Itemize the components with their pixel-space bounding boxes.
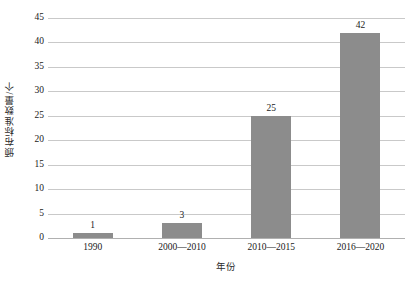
y-axis-tick-labels: 454035302520151050 bbox=[18, 18, 44, 238]
x-axis-tick-label: 2010—2015 bbox=[247, 241, 295, 254]
x-axis-title: 年份 bbox=[48, 259, 405, 273]
y-axis-tick-label: 35 bbox=[20, 62, 44, 72]
bar-chart-figure: 颁布标准数量/个 454035302520151050 132542 19902… bbox=[0, 0, 418, 286]
y-axis-title-text: 颁布标准数量/个 bbox=[3, 81, 17, 157]
x-axis-tick-labels: 19902000—20102010—20152016—2020 bbox=[48, 241, 405, 257]
y-axis-tick-label: 15 bbox=[20, 160, 44, 170]
y-axis-tick-label: 40 bbox=[20, 38, 44, 48]
y-axis-tick-label: 10 bbox=[20, 184, 44, 194]
bar-group: 1 bbox=[48, 18, 137, 238]
bar bbox=[73, 233, 113, 238]
bar bbox=[251, 116, 291, 238]
bar-value-label: 1 bbox=[90, 220, 95, 230]
bar-group: 25 bbox=[227, 18, 316, 238]
plot-area: 132542 bbox=[48, 18, 405, 238]
bar bbox=[340, 33, 380, 238]
bar-value-label: 42 bbox=[356, 20, 366, 30]
bar-value-label: 3 bbox=[180, 210, 185, 220]
x-axis-tick-label: 1990 bbox=[83, 241, 102, 254]
y-axis-tick-label: 0 bbox=[20, 233, 44, 243]
y-axis-tick-label: 5 bbox=[20, 209, 44, 219]
bar bbox=[162, 223, 202, 238]
x-axis-baseline bbox=[48, 238, 405, 239]
y-axis-tick-label: 45 bbox=[20, 13, 44, 23]
y-axis-tick-label: 25 bbox=[20, 111, 44, 121]
y-axis-tick-label: 30 bbox=[20, 87, 44, 97]
y-axis-title: 颁布标准数量/个 bbox=[0, 0, 20, 238]
bar-group: 3 bbox=[137, 18, 226, 238]
bar-value-label: 25 bbox=[266, 103, 276, 113]
bar-group: 42 bbox=[316, 18, 405, 238]
y-axis-tick-label: 20 bbox=[20, 135, 44, 145]
x-axis-tick-label: 2016—2020 bbox=[337, 241, 385, 254]
x-axis-tick-label: 2000—2010 bbox=[158, 241, 206, 254]
